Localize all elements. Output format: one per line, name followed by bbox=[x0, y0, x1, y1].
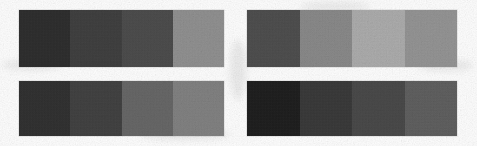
patch-bottom-right-band-4 bbox=[405, 81, 458, 136]
patch-top-left-band-3 bbox=[122, 10, 173, 67]
patch-bottom-right bbox=[247, 81, 457, 136]
patch-top-right bbox=[247, 10, 457, 67]
patch-bottom-left-band-3 bbox=[122, 81, 173, 136]
paper-smudge bbox=[230, 40, 246, 100]
patch-top-left-band-1 bbox=[19, 10, 70, 67]
patch-bottom-left-band-1 bbox=[19, 81, 70, 136]
patch-top-right-band-4 bbox=[405, 10, 458, 67]
patch-top-left-band-2 bbox=[70, 10, 121, 67]
patch-top-right-band-3 bbox=[352, 10, 405, 67]
patch-bottom-left-band-4 bbox=[173, 81, 224, 136]
patch-top-left-band-4 bbox=[173, 10, 224, 67]
patch-bottom-left-band-2 bbox=[70, 81, 121, 136]
patch-bottom-right-band-3 bbox=[352, 81, 405, 136]
patch-top-right-band-2 bbox=[300, 10, 353, 67]
patch-top-right-band-1 bbox=[247, 10, 300, 67]
patch-top-left bbox=[19, 10, 224, 67]
image-canvas bbox=[0, 0, 477, 146]
patch-bottom-right-band-2 bbox=[300, 81, 353, 136]
patch-bottom-left bbox=[19, 81, 224, 136]
patch-bottom-right-band-1 bbox=[247, 81, 300, 136]
